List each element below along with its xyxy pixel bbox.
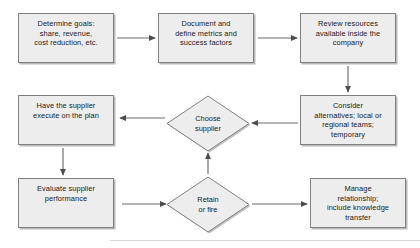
page-bottom-rule xyxy=(110,240,420,241)
node-choose-supplier[interactable]: Choose supplier xyxy=(168,96,248,151)
node-consider-alternatives[interactable]: Consider alternatives; local or regional… xyxy=(300,95,396,145)
node-evaluate-supplier-label: Evaluate supplier performance xyxy=(19,184,113,203)
node-manage-relationship-label: Manage relationship; include knowledge t… xyxy=(311,184,405,222)
node-evaluate-supplier[interactable]: Evaluate supplier performance xyxy=(18,178,114,228)
node-review-resources[interactable]: Review resources available inside the co… xyxy=(300,13,396,63)
node-determine-goals[interactable]: Determine goals: share, revenue, cost re… xyxy=(18,13,114,63)
node-have-supplier-execute[interactable]: Have the supplier execute on the plan xyxy=(18,95,114,145)
flowchart-canvas: Determine goals: share, revenue, cost re… xyxy=(0,0,420,248)
node-have-supplier-execute-label: Have the supplier execute on the plan xyxy=(19,101,113,120)
node-choose-supplier-label: Choose supplier xyxy=(195,114,221,133)
node-manage-relationship[interactable]: Manage relationship; include knowledge t… xyxy=(310,178,406,228)
node-retain-or-fire-label: Retain or fire xyxy=(197,195,218,214)
node-document-metrics-label: Document and define metrics and success … xyxy=(159,19,253,48)
node-document-metrics[interactable]: Document and define metrics and success … xyxy=(158,13,254,63)
node-determine-goals-label: Determine goals: share, revenue, cost re… xyxy=(19,19,113,48)
node-review-resources-label: Review resources available inside the co… xyxy=(301,19,395,48)
node-retain-or-fire[interactable]: Retain or fire xyxy=(168,177,248,232)
node-consider-alternatives-label: Consider alternatives; local or regional… xyxy=(301,101,395,139)
